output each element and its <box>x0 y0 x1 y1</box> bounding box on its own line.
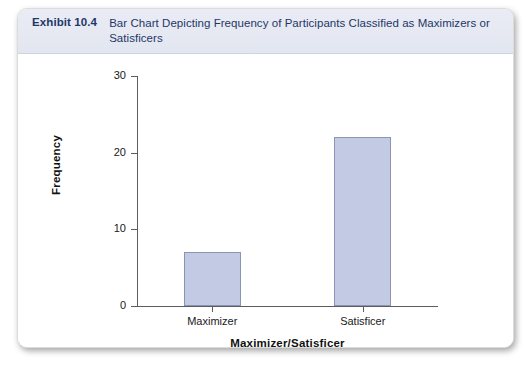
x-axis-tick <box>212 307 213 312</box>
x-axis-title: Maximizer/Satisficer <box>137 337 438 348</box>
y-axis-title: Frequency <box>50 105 62 225</box>
x-axis-line <box>137 306 438 307</box>
x-axis-category-label: Satisficer <box>340 315 385 327</box>
exhibit-caption: Bar Chart Depicting Frequency of Partici… <box>109 16 499 45</box>
bar <box>334 137 391 306</box>
y-axis-tick: 0 <box>131 306 137 307</box>
y-axis-tick-label: 30 <box>114 69 126 81</box>
x-axis-tick <box>363 307 364 312</box>
y-axis-tick: 10 <box>131 229 137 230</box>
y-axis-tick-label: 0 <box>120 299 126 311</box>
y-axis-tick-label: 20 <box>114 146 126 158</box>
exhibit-header: Exhibit 10.4 Bar Chart Depicting Frequen… <box>18 9 513 54</box>
y-axis-tick-label: 10 <box>114 222 126 234</box>
exhibit-number: Exhibit 10.4 <box>32 16 97 28</box>
bar <box>184 252 241 306</box>
chart-plot-area: 0102030 MaximizerSatisficer Frequency Ma… <box>18 54 513 347</box>
y-axis-tick: 30 <box>131 76 137 77</box>
exhibit-card: Exhibit 10.4 Bar Chart Depicting Frequen… <box>17 8 514 348</box>
chart-axes: 0102030 MaximizerSatisficer Frequency Ma… <box>18 54 513 347</box>
x-axis-category-label: Maximizer <box>187 315 237 327</box>
y-axis-tick: 20 <box>131 153 137 154</box>
y-axis-line <box>137 76 138 307</box>
